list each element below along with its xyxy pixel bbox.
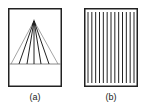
fan-line <box>34 21 49 64</box>
panel-a-frame <box>9 9 62 87</box>
panel-a-converging-lines <box>9 9 62 87</box>
panel-b-parallel-lines <box>85 9 138 87</box>
apex-point <box>32 19 36 25</box>
panel-a-label: (a) <box>20 92 50 102</box>
fan-line <box>19 21 34 64</box>
panel-b-label: (b) <box>96 92 126 102</box>
